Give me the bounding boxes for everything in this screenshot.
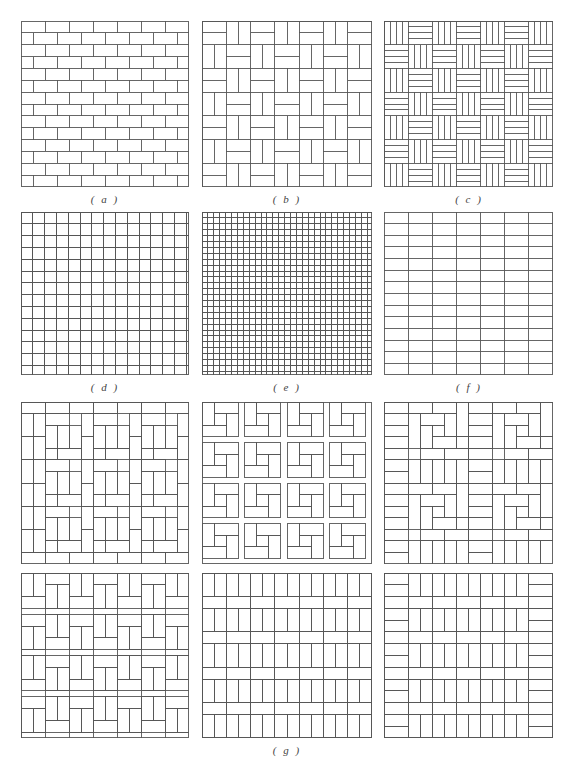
caption-f: ( f )	[384, 381, 554, 393]
panel-b-basket-weave	[202, 21, 372, 187]
caption-b: ( b )	[202, 193, 372, 205]
panel-f-stack-bond	[384, 212, 553, 375]
panel-e-double-herringbone	[202, 212, 372, 375]
caption-a: ( a )	[20, 193, 190, 205]
panel-g1-pinwheel	[21, 402, 189, 564]
panel-g4-basket-tee	[21, 573, 189, 738]
panel-g3-spiral-block	[384, 402, 553, 564]
caption-d: ( d )	[20, 381, 190, 393]
panel-g5-soldier-band	[202, 573, 372, 738]
caption-c: ( c )	[384, 193, 554, 205]
panel-a-running-bond	[21, 21, 189, 187]
panel-c-parquet-checker	[384, 21, 553, 187]
panel-g2-pinwheel-variant	[202, 402, 372, 564]
caption-g: ( g )	[0, 744, 574, 756]
caption-e: ( e )	[202, 381, 372, 393]
panel-g6-soldier-band-bordered	[384, 573, 553, 738]
panel-d-herringbone	[21, 212, 189, 375]
